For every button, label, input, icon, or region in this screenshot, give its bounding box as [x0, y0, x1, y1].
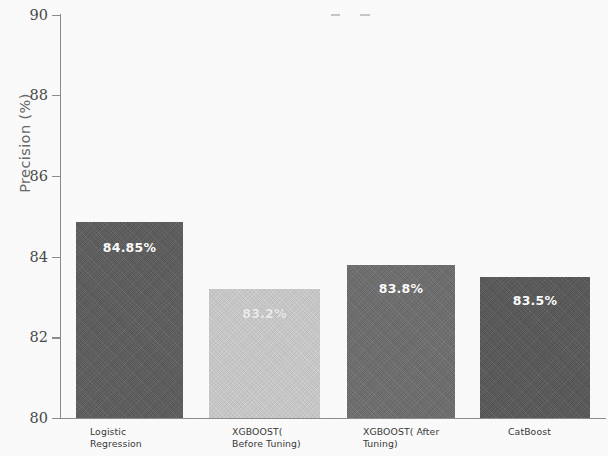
y-axis-line [60, 14, 61, 419]
precision-bar-chart: Precision (%) 80 82 84 86 88 90 84.85% 8… [0, 0, 608, 456]
x-category-label-1: XGBOOST( Before Tuning) [232, 426, 342, 449]
y-tick-label-90: 90 [0, 7, 48, 23]
y-tick-label-82: 82 [0, 329, 48, 345]
x-category-label-3: CatBoost [508, 426, 608, 438]
bar-xgboost-after-tuning: 83.8% [347, 265, 455, 418]
bar-value-label-3: 83.5% [480, 293, 590, 308]
x-category-label-2-line-1: Tuning) [363, 438, 483, 450]
y-tick-label-86: 86 [0, 168, 48, 184]
bar-value-label-2: 83.8% [347, 281, 455, 296]
y-tick-mark-80 [52, 418, 61, 419]
bar-catboost: 83.5% [480, 277, 590, 418]
scan-artifact-mark-1 [331, 14, 340, 16]
bar-value-label-1: 83.2% [209, 306, 320, 321]
x-category-label-0: Logistic Regression [90, 426, 190, 449]
y-tick-label-80: 80 [0, 410, 48, 426]
y-tick-label-84: 84 [0, 249, 48, 265]
x-category-label-2: XGBOOST( After Tuning) [363, 426, 483, 449]
y-tick-mark-86 [52, 176, 61, 177]
y-tick-label-88: 88 [0, 87, 48, 103]
bar-value-label-0: 84.85% [76, 240, 183, 255]
x-category-label-1-line-0: XGBOOST( [232, 426, 342, 438]
x-axis-line [60, 418, 606, 419]
x-category-label-0-line-1: Regression [90, 438, 190, 450]
bar-logistic-regression: 84.85% [76, 222, 183, 418]
bar-xgboost-before-tuning: 83.2% [209, 289, 320, 418]
x-category-label-2-line-0: XGBOOST( After [363, 426, 483, 438]
y-tick-mark-84 [52, 257, 61, 258]
scan-artifact-mark-2 [360, 14, 370, 16]
y-tick-mark-82 [52, 337, 61, 338]
x-category-label-0-line-0: Logistic [90, 426, 190, 438]
x-category-label-3-line-0: CatBoost [508, 426, 608, 438]
y-tick-mark-90 [52, 15, 61, 16]
y-tick-mark-88 [52, 95, 61, 96]
x-category-label-1-line-1: Before Tuning) [232, 438, 342, 450]
